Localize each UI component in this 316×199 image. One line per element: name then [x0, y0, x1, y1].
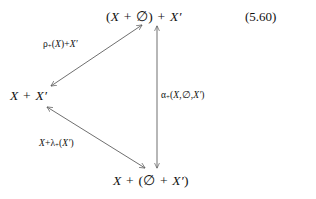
edge-label-rho: ρ+(X)+X′: [43, 39, 78, 49]
edge-label-alpha: α+(X,∅,X′): [161, 89, 205, 100]
node-left: X + X′: [10, 88, 47, 104]
edge-label-lambda: X+λ+(X′): [39, 138, 74, 148]
edge-rho-arrow: [51, 25, 142, 86]
node-bottom: X + (∅ + X′): [113, 172, 189, 189]
node-top: (X + ∅) + X′: [106, 8, 182, 25]
arrow-layer: [0, 0, 316, 199]
equation-number: (5.60): [245, 9, 276, 25]
diagram-page: (X + ∅) + X′ X + X′ X + (∅ + X′) ρ+(X)+X…: [0, 0, 316, 199]
